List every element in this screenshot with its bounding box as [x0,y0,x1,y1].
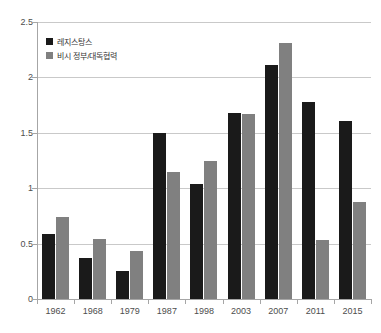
legend-label: 비시 정부/대독협력 [57,50,117,61]
y-tick-mark [32,77,37,78]
x-tick-label: 1987 [157,306,177,316]
legend-item[interactable]: 비시 정부/대독협력 [46,50,117,61]
bar [228,113,241,299]
x-tick-label: 1979 [120,306,140,316]
y-tick-mark [32,188,37,189]
y-tick-label: 2 [3,72,33,82]
x-tick-label: 2003 [231,306,251,316]
x-tick-label: 1962 [46,306,66,316]
bar-group [297,0,334,299]
y-tick-label: 0.5 [3,239,33,249]
bar [316,240,329,299]
bar [167,172,180,299]
x-tick-label: 1998 [194,306,214,316]
x-tick-mark [185,299,186,304]
bar [339,121,352,299]
bar-chart: 00.511.522.5 196219681979198719982003200… [0,0,381,333]
bar [242,114,255,299]
legend-item[interactable]: 레지스탕스 [46,36,117,47]
x-tick-label: 2015 [342,306,362,316]
bar [153,133,166,299]
bar-group [223,0,260,299]
x-tick-label: 1968 [83,306,103,316]
x-tick-mark [111,299,112,304]
bar [116,271,129,299]
y-axis: 00.511.522.5 [0,0,33,333]
x-axis-line [37,299,371,300]
bar [302,102,315,299]
legend: 레지스탕스비시 정부/대독협력 [46,36,117,61]
x-tick-mark [297,299,298,304]
bar-group [148,0,185,299]
x-tick-mark [223,299,224,304]
bar [93,239,106,299]
bar [190,184,203,299]
x-tick-mark [74,299,75,304]
x-tick-mark [260,299,261,304]
bar [79,258,92,299]
bar [56,217,69,299]
y-tick-label: 1 [3,183,33,193]
legend-swatch-icon [46,38,53,45]
bar [353,202,366,300]
bar [42,234,55,299]
legend-swatch-icon [46,52,53,59]
x-tick-mark [334,299,335,304]
x-tick-label: 2007 [268,306,288,316]
bar [130,251,143,299]
y-tick-mark [32,22,37,23]
x-tick-mark [148,299,149,304]
y-tick-label: 2.5 [3,17,33,27]
x-tick-mark [371,299,372,304]
x-tick-label: 2011 [306,306,325,316]
y-tick-label: 1.5 [3,128,33,138]
bar [204,161,217,300]
legend-label: 레지스탕스 [57,36,92,47]
bar-group [334,0,371,299]
bar [265,65,278,299]
bar-group [260,0,297,299]
bar [279,43,292,299]
y-tick-mark [32,133,37,134]
y-tick-label: 0 [3,294,33,304]
x-tick-mark [37,299,38,304]
y-tick-mark [32,244,37,245]
bar-group [185,0,222,299]
